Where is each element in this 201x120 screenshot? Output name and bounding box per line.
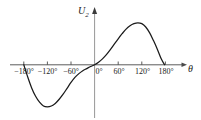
- x-tick-label-minus180: −180°: [14, 68, 34, 76]
- x-axis-label: θ: [188, 64, 193, 74]
- chart-figure: U2 θ −180° −120° −60° 0° 60° 120° 180°: [0, 0, 201, 120]
- x-tick-label-minus120: −120°: [38, 68, 58, 76]
- chart-plot-area: [0, 0, 201, 120]
- x-tick-label-minus60: −60°: [63, 68, 79, 76]
- x-tick-label-0: 0°: [95, 68, 102, 76]
- x-tick-label-180: 180°: [158, 68, 173, 76]
- y-axis: [92, 7, 97, 118]
- x-tick-label-60: 60°: [113, 68, 124, 76]
- y-axis-label-subscript: 2: [85, 11, 89, 19]
- x-tick-label-120: 120°: [135, 68, 150, 76]
- y-axis-label: U2: [78, 6, 89, 19]
